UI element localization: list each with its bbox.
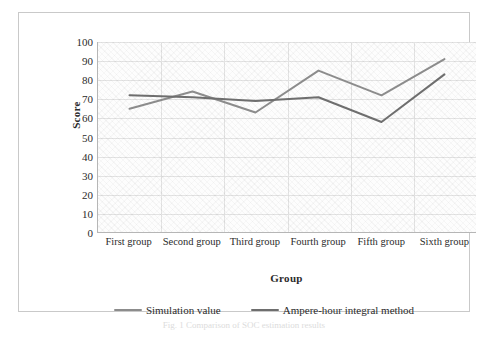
- y-tick-label: 80: [59, 75, 93, 85]
- y-tick-label: 40: [59, 152, 93, 162]
- y-tick-label: 100: [59, 37, 93, 47]
- y-tick-label: 70: [59, 94, 93, 104]
- legend-item-1[interactable]: Simulation value: [114, 304, 221, 316]
- legend-label: Ampere-hour integral method: [283, 304, 414, 316]
- x-tick-label: First group: [97, 236, 160, 248]
- series-lines: [98, 42, 476, 232]
- plot-area: [97, 42, 476, 233]
- chart-frame: Score 1009080706050403020100 First group…: [18, 12, 470, 312]
- y-tick-label: 0: [59, 228, 93, 238]
- x-tick-label: Sixth group: [413, 236, 476, 248]
- y-tick-label: 30: [59, 171, 93, 181]
- x-axis-title: Group: [97, 272, 476, 284]
- series-line-2: [129, 74, 444, 122]
- y-axis-tick-labels: 1009080706050403020100: [59, 37, 93, 233]
- y-tick-label: 20: [59, 190, 93, 200]
- series-line-1: [129, 59, 444, 112]
- y-tick-label: 50: [59, 133, 93, 143]
- chart-legend: Simulation valueAmpere-hour integral met…: [59, 301, 469, 319]
- y-tick-label: 90: [59, 56, 93, 66]
- y-tick-label: 10: [59, 209, 93, 219]
- legend-label: Simulation value: [146, 304, 221, 316]
- x-tick-label: Fourth group: [287, 236, 350, 248]
- x-axis-tick-labels: First groupSecond groupThird groupFourth…: [97, 236, 476, 270]
- x-tick-label: Fifth group: [350, 236, 413, 248]
- legend-line-swatch: [251, 309, 279, 312]
- legend-line-swatch: [114, 309, 142, 312]
- y-tick-label: 60: [59, 113, 93, 123]
- legend-item-2[interactable]: Ampere-hour integral method: [251, 304, 414, 316]
- figure-caption: Fig. 1 Comparison of SOC estimation resu…: [0, 320, 488, 330]
- x-tick-label: Second group: [160, 236, 223, 248]
- figure-container: Score 1009080706050403020100 First group…: [0, 0, 488, 340]
- x-tick-label: Third group: [223, 236, 286, 248]
